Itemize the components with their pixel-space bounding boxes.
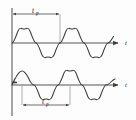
period-label-upper-subscript: p [35, 10, 39, 16]
origin-label-lower: t [14, 76, 16, 83]
period-label-lower-subscript: p [45, 101, 49, 107]
waveform-diagram-canvas: t p t p t t t [0, 0, 136, 120]
waveform-figure: t p t p t t t [0, 0, 136, 120]
lower-axis-label: t [125, 81, 127, 88]
upper-axis-label: t [125, 39, 127, 46]
